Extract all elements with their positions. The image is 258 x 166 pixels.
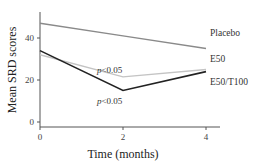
x-tick-label: 4	[204, 132, 209, 142]
y-tick-label: 20	[25, 75, 35, 85]
y-ticks: 02040	[25, 33, 40, 127]
x-tick-label: 0	[38, 132, 43, 142]
series-line-placebo	[40, 23, 206, 48]
y-tick-label: 0	[30, 117, 35, 127]
series-label: E50/T100	[210, 77, 248, 87]
x-ticks: 024	[38, 127, 209, 142]
x-tick-label: 2	[121, 132, 126, 142]
annotation-e50-t100: p<0.05	[96, 96, 123, 106]
series-label: Placebo	[210, 28, 240, 38]
series-label: E50	[210, 54, 226, 64]
y-tick-label: 40	[25, 33, 35, 43]
x-axis-title: Time (months)	[87, 147, 158, 161]
chart: 02040 024 PlaceboE50E50/T100 p<0.05 p<0.…	[0, 0, 258, 166]
series-line-e50	[40, 55, 206, 77]
series-labels: PlaceboE50E50/T100	[210, 28, 248, 87]
annotation-e50: p<0.05	[96, 65, 123, 75]
series-group	[40, 23, 206, 90]
series-line-e50-t100	[40, 51, 206, 91]
y-axis-title: Mean SRD scores	[5, 26, 19, 113]
